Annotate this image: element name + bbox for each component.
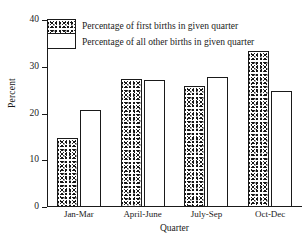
y-axis-tick-label: 10 bbox=[30, 156, 40, 166]
legend-swatch-first-births bbox=[48, 20, 75, 34]
bar bbox=[248, 51, 269, 207]
bar bbox=[184, 86, 205, 207]
bar bbox=[207, 77, 228, 207]
bar bbox=[121, 79, 142, 207]
x-axis-category-label: Jan-Mar bbox=[64, 210, 94, 219]
bar-chart: Percent 010203040 Jan-MarApril-JuneJuly-… bbox=[0, 0, 307, 246]
y-axis-title: Percent bbox=[7, 63, 17, 123]
x-axis-title: Quarter bbox=[47, 224, 302, 234]
bar bbox=[271, 91, 292, 207]
bar bbox=[57, 138, 78, 207]
y-axis-tick: 0 bbox=[42, 207, 47, 208]
y-axis-tick-label: 20 bbox=[30, 109, 40, 119]
y-axis-tick: 10 bbox=[42, 160, 47, 161]
legend-labels: Percentage of first births in given quar… bbox=[82, 19, 254, 49]
legend: Percentage of first births in given quar… bbox=[47, 19, 254, 49]
legend-label-other-births: Percentage of all other births in given … bbox=[82, 35, 254, 49]
y-axis-tick-label: 40 bbox=[30, 15, 40, 25]
x-axis-category-label: July-Sep bbox=[191, 210, 223, 219]
bar bbox=[80, 110, 101, 207]
legend-swatch-other-births bbox=[48, 34, 75, 48]
legend-label-first-births: Percentage of first births in given quar… bbox=[82, 19, 254, 33]
x-axis-category-label: April-June bbox=[123, 210, 162, 219]
bar bbox=[144, 80, 165, 207]
y-axis-tick: 30 bbox=[42, 67, 47, 68]
x-axis-category-label: Oct-Dec bbox=[255, 210, 285, 219]
legend-swatches bbox=[47, 19, 76, 49]
y-axis-tick: 20 bbox=[42, 114, 47, 115]
y-axis-tick-label: 0 bbox=[34, 202, 39, 212]
y-axis-tick-label: 30 bbox=[30, 62, 40, 72]
